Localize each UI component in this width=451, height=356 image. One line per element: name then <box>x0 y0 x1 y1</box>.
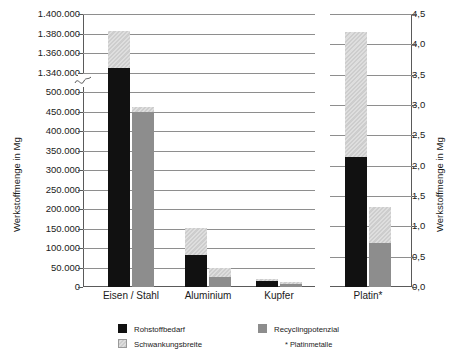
bar-segment-schwankungsbreite <box>108 31 130 68</box>
axis-tick <box>78 34 83 35</box>
gridline <box>330 14 412 15</box>
category-label: Kupfer <box>229 290 329 301</box>
gridline <box>83 14 315 15</box>
bar-rohstoffbedarf-main-segment <box>108 68 130 287</box>
left-tick-label: 1.340.000 <box>22 68 80 78</box>
left-tick-label: 200.000 <box>22 204 80 214</box>
axis-tick <box>78 112 83 113</box>
gridline <box>330 196 412 197</box>
gridline <box>330 44 412 45</box>
left-tick-label: 50.000 <box>22 263 80 273</box>
axis-break-icon <box>74 72 92 88</box>
legend-swatch-recy <box>258 324 267 333</box>
axis-tick <box>412 226 417 227</box>
bar-recyclingpotenzial-main-segment <box>209 277 231 287</box>
axis-tick <box>412 75 417 76</box>
chart-legend: RohstoffbedarfRecyclingpotenzialSchwanku… <box>0 322 451 356</box>
left-tick-label: 350.000 <box>22 146 80 156</box>
axis-tick <box>412 287 417 288</box>
bar-rohstoffbedarf <box>108 31 130 287</box>
axis-tick <box>78 248 83 249</box>
left-tick-label: 150.000 <box>22 224 80 234</box>
left-tick-label: 300.000 <box>22 165 80 175</box>
legend-swatch-range <box>118 339 127 348</box>
axis-tick <box>78 170 83 171</box>
axis-tick <box>412 196 417 197</box>
bar-recyclingpotenzial-main-segment <box>369 243 391 287</box>
left-tick-label: 500.000 <box>22 87 80 97</box>
chart-root: Werkstoffmenge in Mg Werkstoffmenge in M… <box>0 0 451 356</box>
gridline <box>330 75 412 76</box>
axis-tick <box>78 190 83 191</box>
axis-tick <box>78 229 83 230</box>
bar-recyclingpotenzial <box>280 282 302 287</box>
bar-segment-schwankungsbreite <box>209 268 231 277</box>
axis-tick <box>78 151 83 152</box>
axis-tick <box>78 287 83 288</box>
bar-rohstoffbedarf <box>256 279 278 287</box>
bar-segment-schwankungsbreite <box>185 228 207 255</box>
legend-label: Schwankungsbreite <box>134 340 202 349</box>
left-tick-label: 1.400.000 <box>22 9 80 19</box>
category-label: Platin* <box>318 290 418 301</box>
axis-tick <box>412 257 417 258</box>
axis-tick <box>78 92 83 93</box>
gridline <box>330 166 412 167</box>
axis-tick <box>412 135 417 136</box>
left-axis-title: Werkstoffmenge in Mg <box>11 137 22 232</box>
axis-tick <box>78 14 83 15</box>
axis-tick <box>412 166 417 167</box>
bar-recyclingpotenzial <box>209 268 231 287</box>
left-tick-label: 250.000 <box>22 185 80 195</box>
axis-tick <box>412 105 417 106</box>
bar-rohstoffbedarf <box>345 32 367 287</box>
bar-rohstoffbedarf-main-segment <box>345 157 367 287</box>
legend-swatch-need <box>118 324 127 333</box>
gridline <box>330 135 412 136</box>
chart-footnote: * Platinmetalle <box>285 340 332 349</box>
axis-tick <box>78 209 83 210</box>
left-tick-label: 1.380.000 <box>22 29 80 39</box>
left-tick-label: 400.000 <box>22 126 80 136</box>
axis-tick <box>412 14 417 15</box>
legend-label: Recyclingpotenzial <box>274 325 339 334</box>
plot-area-left <box>83 14 315 287</box>
axis-tick <box>412 44 417 45</box>
bar-recyclingpotenzial-main-segment <box>132 112 154 288</box>
axis-tick <box>78 268 83 269</box>
bar-recyclingpotenzial <box>132 107 154 287</box>
bar-segment-schwankungsbreite <box>369 207 391 243</box>
right-axis-title: Werkstoffmenge in Mg <box>434 137 445 232</box>
bar-segment-schwankungsbreite <box>345 32 367 156</box>
left-tick-label: 1.360.000 <box>22 48 80 58</box>
bar-rohstoffbedarf-main-segment <box>185 255 207 287</box>
plot-area-right <box>330 14 412 287</box>
left-tick-label: 450.000 <box>22 107 80 117</box>
left-tick-label: 0 <box>22 282 80 292</box>
axis-tick <box>78 131 83 132</box>
bar-rohstoffbedarf <box>185 228 207 287</box>
axis-tick <box>78 53 83 54</box>
legend-label: Rohstoffbedarf <box>134 325 185 334</box>
gridline <box>330 105 412 106</box>
bar-recyclingpotenzial-main-segment <box>280 284 302 287</box>
bar-rohstoffbedarf-main-segment <box>256 281 278 287</box>
bar-recyclingpotenzial <box>369 207 391 287</box>
left-tick-label: 100.000 <box>22 243 80 253</box>
